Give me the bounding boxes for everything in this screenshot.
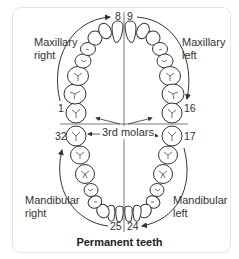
label-text: Maxillary: [182, 36, 225, 49]
tooth-number-17: 17: [184, 130, 196, 142]
tooth-number-1: 1: [58, 102, 64, 114]
label-maxillary-left: Maxillary left: [182, 36, 225, 62]
label-text: right: [34, 49, 77, 62]
label-mandibular-left: Mandibular left: [173, 194, 227, 220]
tooth-23: [133, 205, 141, 221]
label-3rd-molars: 3rd molars: [101, 126, 155, 139]
label-text: left: [182, 49, 225, 62]
label-text: right: [25, 207, 79, 220]
tooth-8: [112, 21, 123, 43]
tooth-9: [125, 21, 136, 43]
label-maxillary-right: Maxillary right: [34, 36, 77, 62]
tooth-number-16: 16: [184, 102, 196, 114]
tooth-number-25: 25: [110, 220, 122, 232]
diagram-title: Permanent teeth: [0, 236, 239, 248]
tooth-number-32: 32: [55, 130, 67, 142]
label-text: Mandibular: [173, 194, 227, 207]
label-text: Maxillary: [34, 36, 77, 49]
tooth-number-8: 8: [115, 10, 121, 22]
label-text: left: [173, 207, 227, 220]
tooth-number-24: 24: [127, 220, 139, 232]
label-mandibular-right: Mandibular right: [25, 194, 79, 220]
tooth-number-9: 9: [127, 10, 133, 22]
label-text: Mandibular: [25, 194, 79, 207]
